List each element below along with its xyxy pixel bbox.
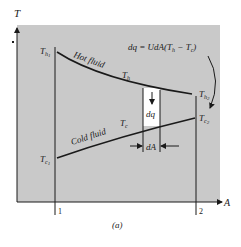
station-1-label: 1 — [58, 207, 62, 216]
figure-caption: (a) — [112, 220, 123, 230]
station-2-label: 2 — [199, 207, 203, 216]
heat-exchanger-temperature-diagram: T A 1 2 dq Hot fluid Th Cold fluid Tc Th… — [0, 0, 241, 247]
da-label: dA — [146, 142, 157, 152]
y-axis-label: T — [14, 7, 21, 19]
heat-transfer-equation: dq = UdA(Th − Tc) — [128, 42, 196, 53]
x-axis-label: A — [223, 197, 231, 208]
axis-tick-mark — [12, 41, 14, 43]
dq-label: dq — [146, 109, 156, 119]
